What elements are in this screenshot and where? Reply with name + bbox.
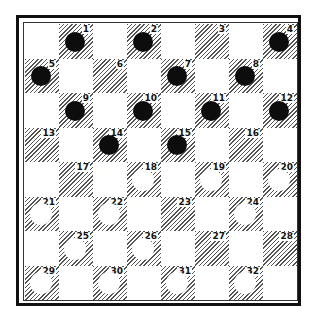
square-16[interactable]: 16 xyxy=(229,128,263,163)
black-checker-piece[interactable] xyxy=(99,135,119,155)
square-number: 28 xyxy=(279,232,294,241)
square-number: 17 xyxy=(75,163,90,172)
square-1[interactable]: 1 xyxy=(59,24,93,59)
light-square xyxy=(93,231,127,266)
white-checker-piece[interactable] xyxy=(31,204,51,224)
black-checker-piece[interactable] xyxy=(269,32,289,52)
square-number: 16 xyxy=(245,129,260,138)
square-10[interactable]: 10 xyxy=(127,93,161,128)
square-number: 23 xyxy=(177,198,192,207)
light-square xyxy=(229,24,263,59)
black-checker-piece[interactable] xyxy=(167,66,187,86)
black-checker-piece[interactable] xyxy=(201,101,221,121)
light-square xyxy=(195,266,229,301)
square-7[interactable]: 7 xyxy=(161,59,195,94)
light-square xyxy=(161,93,195,128)
light-square xyxy=(127,59,161,94)
square-12[interactable]: 12 xyxy=(263,93,297,128)
black-checker-piece[interactable] xyxy=(235,66,255,86)
square-6[interactable]: 6 xyxy=(93,59,127,94)
square-number: 9 xyxy=(82,94,90,103)
square-number: 6 xyxy=(116,60,124,69)
square-25[interactable]: 25 xyxy=(59,231,93,266)
light-square xyxy=(59,266,93,301)
light-square xyxy=(195,128,229,163)
light-square xyxy=(229,231,263,266)
light-square xyxy=(25,24,59,59)
light-square xyxy=(127,128,161,163)
light-square xyxy=(59,59,93,94)
square-31[interactable]: 31 xyxy=(161,266,195,301)
light-square xyxy=(93,93,127,128)
light-square xyxy=(195,197,229,232)
white-checker-piece[interactable] xyxy=(269,170,289,190)
light-square xyxy=(195,59,229,94)
square-4[interactable]: 4 xyxy=(263,24,297,59)
light-square xyxy=(93,24,127,59)
square-number: 8 xyxy=(252,60,260,69)
square-26[interactable]: 26 xyxy=(127,231,161,266)
white-checker-piece[interactable] xyxy=(99,204,119,224)
white-checker-piece[interactable] xyxy=(133,239,153,259)
square-number: 13 xyxy=(41,129,56,138)
square-28[interactable]: 28 xyxy=(263,231,297,266)
square-18[interactable]: 18 xyxy=(127,162,161,197)
square-9[interactable]: 9 xyxy=(59,93,93,128)
square-8[interactable]: 8 xyxy=(229,59,263,94)
light-square xyxy=(263,197,297,232)
square-21[interactable]: 21 xyxy=(25,197,59,232)
white-checker-piece[interactable] xyxy=(167,273,187,293)
square-15[interactable]: 15 xyxy=(161,128,195,163)
light-square xyxy=(161,231,195,266)
square-30[interactable]: 30 xyxy=(93,266,127,301)
square-32[interactable]: 32 xyxy=(229,266,263,301)
light-square xyxy=(229,93,263,128)
square-number: 5 xyxy=(48,60,56,69)
square-19[interactable]: 19 xyxy=(195,162,229,197)
white-checker-piece[interactable] xyxy=(31,273,51,293)
square-number: 7 xyxy=(184,60,192,69)
black-checker-piece[interactable] xyxy=(31,66,51,86)
white-checker-piece[interactable] xyxy=(235,204,255,224)
black-checker-piece[interactable] xyxy=(167,135,187,155)
black-checker-piece[interactable] xyxy=(269,101,289,121)
light-square xyxy=(127,197,161,232)
black-checker-piece[interactable] xyxy=(65,101,85,121)
square-23[interactable]: 23 xyxy=(161,197,195,232)
square-number: 1 xyxy=(82,25,90,34)
black-checker-piece[interactable] xyxy=(65,32,85,52)
light-square xyxy=(263,59,297,94)
square-number: 3 xyxy=(218,25,226,34)
checkerboard-frame: 1234567891011121314151617181920212223242… xyxy=(16,15,301,306)
square-17[interactable]: 17 xyxy=(59,162,93,197)
white-checker-piece[interactable] xyxy=(65,239,85,259)
square-20[interactable]: 20 xyxy=(263,162,297,197)
square-3[interactable]: 3 xyxy=(195,24,229,59)
square-27[interactable]: 27 xyxy=(195,231,229,266)
square-24[interactable]: 24 xyxy=(229,197,263,232)
light-square xyxy=(161,162,195,197)
light-square xyxy=(25,231,59,266)
square-13[interactable]: 13 xyxy=(25,128,59,163)
square-14[interactable]: 14 xyxy=(93,128,127,163)
white-checker-piece[interactable] xyxy=(133,170,153,190)
square-number: 27 xyxy=(211,232,226,241)
light-square xyxy=(25,162,59,197)
square-29[interactable]: 29 xyxy=(25,266,59,301)
white-checker-piece[interactable] xyxy=(99,273,119,293)
white-checker-piece[interactable] xyxy=(201,170,221,190)
square-2[interactable]: 2 xyxy=(127,24,161,59)
light-square xyxy=(263,266,297,301)
white-checker-piece[interactable] xyxy=(235,273,255,293)
square-11[interactable]: 11 xyxy=(195,93,229,128)
square-number: 2 xyxy=(150,25,158,34)
square-5[interactable]: 5 xyxy=(25,59,59,94)
light-square xyxy=(127,266,161,301)
light-square xyxy=(161,24,195,59)
square-22[interactable]: 22 xyxy=(93,197,127,232)
black-checker-piece[interactable] xyxy=(133,101,153,121)
checkerboard-inner-border: 1234567891011121314151617181920212223242… xyxy=(23,22,298,301)
light-square xyxy=(59,197,93,232)
black-checker-piece[interactable] xyxy=(133,32,153,52)
light-square xyxy=(25,93,59,128)
